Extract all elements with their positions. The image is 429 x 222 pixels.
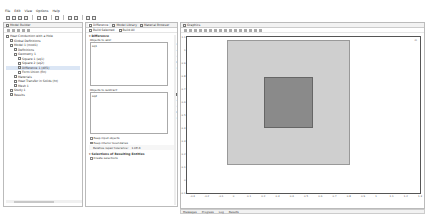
zoom-in-icon[interactable]: [184, 29, 187, 32]
y-tick-label: 0.3: [182, 140, 186, 143]
settings-panel: Difference Model Library Material Browse…: [85, 22, 178, 207]
checkbox-unchecked[interactable]: [90, 157, 93, 160]
dropdown-icon[interactable]: [92, 16, 96, 20]
study-icon: [10, 89, 13, 92]
x-tick-label: 1.1: [390, 195, 394, 198]
x-tick-label: 0.5: [304, 195, 308, 198]
toolbar-separator: [51, 15, 52, 20]
create-selections-checkbox[interactable]: Create selections: [86, 156, 177, 161]
toolbar-separator: [32, 15, 33, 20]
tree-node-label: Definitions: [18, 48, 34, 52]
tab-messages[interactable]: Messages: [183, 210, 197, 213]
undo-icon[interactable]: [37, 16, 41, 20]
x-tick-label: 0.4: [290, 195, 294, 198]
vertical-scrollbar[interactable]: [174, 35, 177, 205]
grid-icon[interactable]: [244, 29, 247, 32]
tree-node-label: Square 2 (sq2): [22, 61, 44, 65]
build-selected-button[interactable]: Build Selected: [89, 28, 115, 32]
select-icon[interactable]: [204, 29, 207, 32]
layout-icon[interactable]: [74, 16, 78, 20]
tree-node-label: Difference 1 (dif1): [22, 66, 49, 70]
repair-tolerance-input[interactable]: 1.0E-6: [131, 146, 140, 150]
tab-log[interactable]: Log: [219, 210, 224, 213]
save-icon[interactable]: [18, 16, 22, 20]
x-tick-label: 0.6: [318, 195, 322, 198]
expand-icon[interactable]: [27, 29, 30, 32]
build-all-icon: [119, 29, 122, 32]
checkbox-checked[interactable]: [90, 142, 93, 145]
x-tick-label: 0.1: [247, 195, 251, 198]
objects-to-add-list[interactable]: sq1 ▫ + − ⊘ ↕: [90, 42, 168, 86]
x-tick-label: -0.3: [190, 195, 195, 198]
x-tick-label: -0.2: [204, 195, 209, 198]
zoom-extents-icon[interactable]: [199, 29, 202, 32]
tab-results[interactable]: Results: [229, 210, 239, 213]
new-icon[interactable]: [6, 16, 10, 20]
add-physics-icon[interactable]: [86, 16, 90, 20]
list-item[interactable]: sq1: [92, 44, 166, 48]
collapse-icon[interactable]: [22, 29, 25, 32]
y-tick-label: 0.1: [182, 166, 186, 169]
main-toolbar: [0, 14, 429, 21]
tree-node-label: Study 1: [14, 88, 26, 92]
select-domain-icon[interactable]: [209, 29, 212, 32]
x-tick-label: 0.9: [361, 195, 365, 198]
back-icon[interactable]: [7, 29, 10, 32]
horizontal-scrollbar[interactable]: [6, 200, 82, 203]
build-selected-icon: [89, 29, 92, 32]
axis-icon[interactable]: [249, 29, 252, 32]
model-builder-panel: Model Builder Heat Conduction with a Hol…: [3, 22, 83, 207]
square-sq2-hole[interactable]: [264, 77, 313, 128]
x-tick-label: 0.8: [347, 195, 351, 198]
zoom-box-icon[interactable]: [194, 29, 197, 32]
hide-icon[interactable]: [234, 29, 237, 32]
build-all-button[interactable]: Build All: [119, 28, 135, 32]
show-icon[interactable]: [17, 29, 20, 32]
print-graphics-icon[interactable]: [254, 29, 257, 32]
tree-node[interactable]: Results: [6, 93, 80, 98]
tab-difference[interactable]: Difference: [88, 23, 109, 27]
tree-node-label: Global Definitions: [14, 39, 41, 43]
geometry-canvas[interactable]: m: [186, 36, 421, 194]
select-point-icon[interactable]: [219, 29, 222, 32]
y-tick-label: 0.4: [182, 127, 186, 130]
y-tick-label: 0.7: [182, 88, 186, 91]
x-tick-label: 1.3: [418, 195, 422, 198]
y-tick-label: 0.5: [182, 114, 186, 117]
image-snapshot-icon[interactable]: [259, 29, 262, 32]
graphics-icon: [183, 24, 186, 27]
redo-icon[interactable]: [43, 16, 47, 20]
select-boundary-icon[interactable]: [214, 29, 217, 32]
x-tick-label: 1: [375, 195, 377, 198]
scrollbar-thumb[interactable]: [14, 201, 54, 203]
tab-material-browser[interactable]: Material Browser: [140, 23, 169, 27]
y-tick-label: 0.6: [182, 101, 186, 104]
list-item[interactable]: sq2: [92, 94, 166, 98]
axis-unit-label: m: [415, 39, 417, 42]
graphics-toolbar: [181, 28, 424, 33]
copy-icon[interactable]: [55, 16, 59, 20]
open-icon[interactable]: [12, 16, 16, 20]
objects-to-subtract-list[interactable]: sq2 ▫ + − ⊘ ↕: [90, 92, 168, 134]
material-icon: [140, 24, 143, 27]
checkbox-unchecked[interactable]: [90, 137, 93, 140]
collapse-arrow-icon: ▾: [89, 34, 91, 38]
window-icon[interactable]: [68, 16, 72, 20]
select-all-icon[interactable]: [224, 29, 227, 32]
x-tick-label: 0.7: [333, 195, 337, 198]
x-tick-label: 0.3: [276, 195, 280, 198]
clear-selection-icon[interactable]: [229, 29, 232, 32]
x-tick-label: 1.2: [404, 195, 408, 198]
tree-node-label: Results: [14, 93, 25, 97]
x-tick-label: 0.2: [261, 195, 265, 198]
forward-icon[interactable]: [12, 29, 15, 32]
model-builder-title: Model Builder: [10, 23, 31, 27]
global-definitions-icon: [10, 39, 13, 42]
print-icon[interactable]: [24, 16, 28, 20]
tab-model-library[interactable]: Model Library: [112, 23, 136, 27]
tab-progress[interactable]: Progress: [202, 210, 214, 213]
graphics-panel: Graphics m 1.110.90.80.70.60.50.40.30.20…: [180, 22, 425, 209]
show-all-icon[interactable]: [239, 29, 242, 32]
materials-icon: [14, 75, 17, 78]
zoom-out-icon[interactable]: [189, 29, 192, 32]
